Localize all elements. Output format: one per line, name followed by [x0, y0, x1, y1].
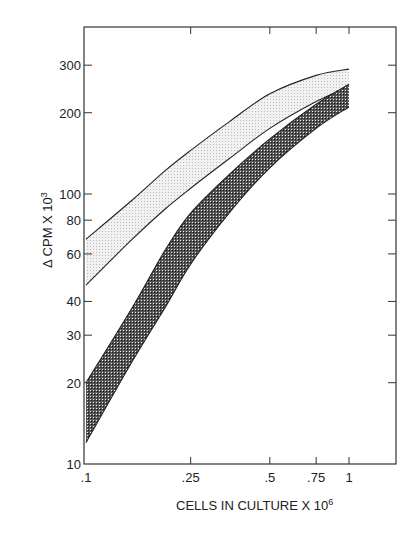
plot-border [84, 27, 396, 464]
light-band [86, 69, 349, 285]
y-tick-label: 300 [59, 58, 81, 73]
data-bands [86, 69, 349, 442]
y-tick-label: 20 [67, 376, 81, 391]
y-tick-label: 60 [67, 247, 81, 262]
plot-frame [84, 27, 396, 464]
y-tick-label: 80 [67, 213, 81, 228]
y-tick-label: 100 [59, 187, 81, 202]
y-tick-label: 40 [67, 294, 81, 309]
x-tick-label: .25 [182, 470, 200, 485]
x-axis-title: CELLS IN CULTURE X 106 [176, 497, 333, 513]
y-tick-label: 10 [67, 457, 81, 472]
y-axis: 102030406080100200300 [59, 58, 396, 472]
x-tick-label: .75 [307, 470, 325, 485]
x-tick-label: 1 [345, 470, 352, 485]
y-tick-label: 200 [59, 106, 81, 121]
x-tick-label: .5 [264, 470, 275, 485]
y-axis-title: Δ CPM X 103 [39, 192, 55, 268]
chart: 102030406080100200300 .1.25.5.751 CELLS … [0, 0, 419, 544]
x-tick-label: .1 [81, 470, 92, 485]
y-tick-label: 30 [67, 328, 81, 343]
